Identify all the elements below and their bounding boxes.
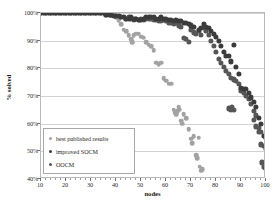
x-minor-tick-mark xyxy=(150,178,151,180)
x-minor-tick-mark xyxy=(180,178,181,180)
data-point xyxy=(213,49,218,54)
data-point xyxy=(195,156,200,161)
x-minor-tick-mark xyxy=(160,178,161,180)
chart-legend: best published resultsimproved SOCMOOCM xyxy=(43,128,135,174)
legend-marker-icon xyxy=(49,150,52,153)
x-minor-tick-mark xyxy=(80,178,81,180)
x-tick-label: 80 xyxy=(202,181,228,188)
gridline xyxy=(41,41,264,42)
legend-marker-icon xyxy=(49,137,52,140)
scatter-chart: % solved 40%50%60%70%80%90%100% 10203040… xyxy=(0,0,280,202)
data-point xyxy=(200,167,205,172)
x-tick-mark xyxy=(140,178,141,181)
y-tick-mark xyxy=(37,150,40,151)
x-axis-label: nodes xyxy=(40,190,265,197)
x-tick-mark xyxy=(190,178,191,181)
x-minor-tick-mark xyxy=(210,178,211,180)
x-minor-tick-mark xyxy=(185,178,186,180)
y-tick-mark xyxy=(37,40,40,41)
x-minor-tick-mark xyxy=(220,178,221,180)
x-tick-label: 60 xyxy=(152,181,178,188)
legend-item: improved SOCM xyxy=(49,145,134,158)
data-point xyxy=(196,135,201,140)
x-tick-mark xyxy=(40,178,41,181)
x-tick-mark xyxy=(215,178,216,181)
data-point xyxy=(159,61,164,66)
data-point xyxy=(184,116,189,121)
x-minor-tick-mark xyxy=(135,178,136,180)
x-minor-tick-mark xyxy=(260,178,261,180)
x-tick-label: 20 xyxy=(52,181,78,188)
x-minor-tick-mark xyxy=(200,178,201,180)
x-tick-mark xyxy=(240,178,241,181)
y-tick-mark xyxy=(37,123,40,124)
x-minor-tick-mark xyxy=(110,178,111,180)
legend-item: OOCM xyxy=(49,158,134,171)
data-point xyxy=(228,59,233,64)
legend-marker-icon xyxy=(49,163,52,166)
y-tick-label: 80% xyxy=(2,64,38,71)
x-minor-tick-mark xyxy=(70,178,71,180)
data-point xyxy=(263,146,265,151)
gridline xyxy=(41,124,264,125)
x-tick-label: 10 xyxy=(27,181,53,188)
x-minor-tick-mark xyxy=(50,178,51,180)
data-point xyxy=(208,38,213,43)
data-point xyxy=(263,135,265,140)
gridline xyxy=(41,68,264,69)
data-point xyxy=(130,40,135,45)
data-point xyxy=(180,121,185,126)
data-point xyxy=(190,141,195,146)
x-minor-tick-mark xyxy=(75,178,76,180)
x-minor-tick-mark xyxy=(205,178,206,180)
data-point xyxy=(231,107,236,112)
x-minor-tick-mark xyxy=(85,178,86,180)
x-minor-tick-mark xyxy=(195,178,196,180)
x-tick-label: 30 xyxy=(77,181,103,188)
x-minor-tick-mark xyxy=(255,178,256,180)
x-tick-mark xyxy=(165,178,166,181)
x-minor-tick-mark xyxy=(125,178,126,180)
x-minor-tick-mark xyxy=(45,178,46,180)
data-point xyxy=(151,48,156,53)
y-tick-mark xyxy=(37,67,40,68)
x-tick-mark xyxy=(90,178,91,181)
data-point xyxy=(256,116,261,121)
x-minor-tick-mark xyxy=(130,178,131,180)
x-minor-tick-mark xyxy=(55,178,56,180)
y-tick-label: 60% xyxy=(2,119,38,126)
x-minor-tick-mark xyxy=(225,178,226,180)
y-axis-ticks: 40%50%60%70%80%90%100% xyxy=(0,12,38,178)
legend-item: best published results xyxy=(49,132,134,145)
y-tick-mark xyxy=(37,12,40,13)
x-tick-label: 90 xyxy=(227,181,253,188)
x-minor-tick-mark xyxy=(230,178,231,180)
x-minor-tick-mark xyxy=(100,178,101,180)
data-point xyxy=(211,44,216,49)
data-point xyxy=(119,22,124,27)
legend-label: improved SOCM xyxy=(56,149,98,155)
data-point xyxy=(186,39,191,44)
data-point xyxy=(186,127,191,132)
x-minor-tick-mark xyxy=(105,178,106,180)
x-tick-label: 100 xyxy=(252,181,278,188)
y-tick-label: 70% xyxy=(2,92,38,99)
y-tick-label: 90% xyxy=(2,36,38,43)
x-minor-tick-mark xyxy=(60,178,61,180)
x-minor-tick-mark xyxy=(95,178,96,180)
x-minor-tick-mark xyxy=(120,178,121,180)
x-minor-tick-mark xyxy=(145,178,146,180)
x-tick-label: 40 xyxy=(102,181,128,188)
data-point xyxy=(169,81,174,86)
data-point xyxy=(236,71,241,76)
x-tick-label: 50 xyxy=(127,181,153,188)
x-tick-label: 70 xyxy=(177,181,203,188)
data-point xyxy=(231,42,236,47)
data-point xyxy=(191,134,196,139)
data-point xyxy=(218,44,223,49)
data-point xyxy=(226,53,231,58)
data-point xyxy=(260,160,265,165)
x-tick-mark xyxy=(265,178,266,181)
x-minor-tick-mark xyxy=(245,178,246,180)
y-tick-label: 50% xyxy=(2,147,38,154)
